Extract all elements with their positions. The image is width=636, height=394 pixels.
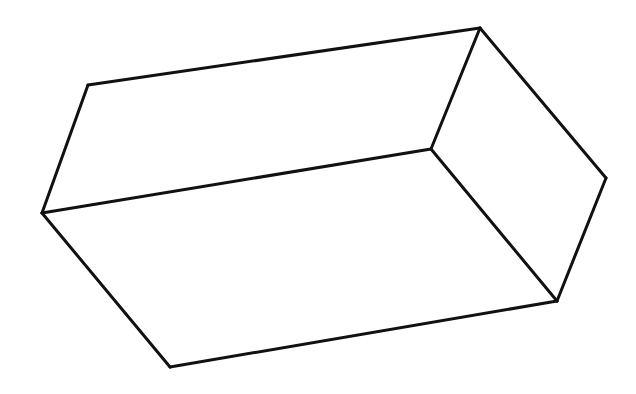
edge-top_right-right xyxy=(480,28,606,178)
edge-top_left-top_right xyxy=(88,28,480,85)
box-diagram xyxy=(0,0,636,394)
edge-right-bottom_right xyxy=(557,178,606,301)
edge-bottom_left-bottom_right xyxy=(170,301,557,367)
edge-top_left-left xyxy=(42,85,88,213)
edge-inner-bottom_right xyxy=(431,149,557,301)
edge-left-inner xyxy=(42,149,431,213)
edge-left-bottom_left xyxy=(42,213,170,367)
edge-top_right-inner xyxy=(431,28,480,149)
